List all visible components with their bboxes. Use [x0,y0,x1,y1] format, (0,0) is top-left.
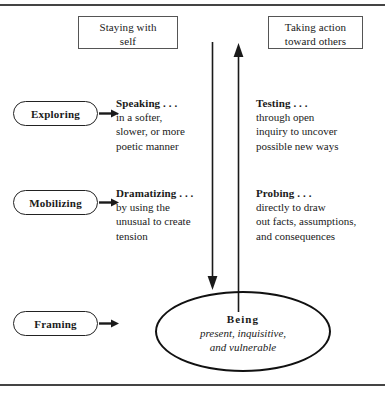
practice-block-speaking: Speaking . . . in a softer, slower, or m… [116,96,208,153]
column-header-staying-with-self: Staying with self [78,16,178,49]
arrow-up-icon [234,43,244,57]
row-capsule-exploring-label: Exploring [31,108,80,120]
column-header-taking-action-toward-others-label: Taking action toward others [285,21,346,47]
row-capsule-exploring[interactable]: Exploring [13,101,98,126]
row-capsule-mobilizing[interactable]: Mobilizing [13,190,98,215]
being-title: Being [155,312,331,326]
row-capsule-framing[interactable]: Framing [13,311,98,336]
practice-block-testing: Testing . . . through open inquiry to un… [256,96,372,153]
arrow-right-icon-framing [99,319,119,328]
practice-block-probing: Probing . . . directly to draw out facts… [256,186,374,243]
row-capsule-framing-label: Framing [34,318,76,330]
diagram-canvas: Staying with self Taking action toward o… [0,0,385,399]
row-capsule-mobilizing-label: Mobilizing [29,197,82,209]
practice-block-probing-head: Probing . . . [256,186,374,200]
being-text-group: Being present, inquisitive, and vulnerab… [155,312,331,354]
practice-block-testing-body: through open inquiry to uncover possible… [256,110,372,153]
practice-block-speaking-head: Speaking . . . [116,96,208,110]
practice-block-dramatizing-head: Dramatizing . . . [116,186,212,200]
frame-top-rule [0,4,385,6]
column-header-taking-action-toward-others: Taking action toward others [268,16,363,49]
practice-block-dramatizing: Dramatizing . . . by using the unusual t… [116,186,212,243]
practice-block-testing-head: Testing . . . [256,96,372,110]
frame-bottom-rule [0,384,385,386]
practice-block-speaking-body: in a softer, slower, or more poetic mann… [116,110,208,153]
practice-block-probing-body: directly to draw out facts, assumptions,… [256,200,374,243]
being-subtitle: present, inquisitive, and vulnerable [155,326,331,354]
arrow-down-icon [208,276,218,290]
column-header-staying-with-self-label: Staying with self [99,21,156,47]
practice-block-dramatizing-body: by using the unusual to create tension [116,200,212,243]
